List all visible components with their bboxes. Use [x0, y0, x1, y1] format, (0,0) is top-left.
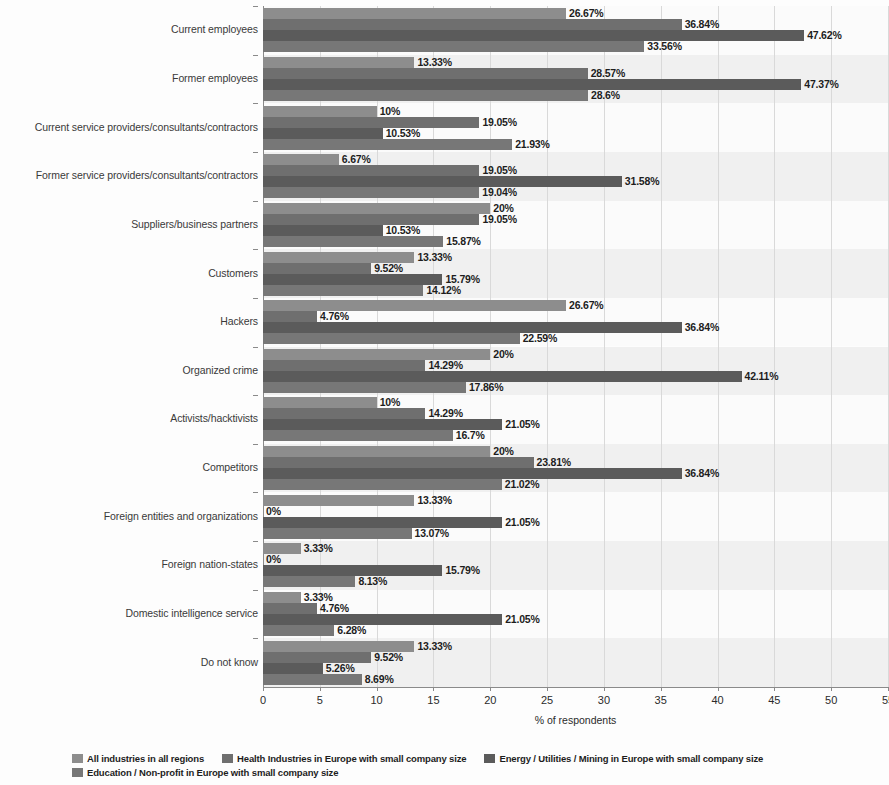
- category-tick: [253, 444, 258, 445]
- category-label: Foreign entities and organizations: [6, 510, 258, 522]
- bar[interactable]: [263, 468, 682, 479]
- category-label: Former employees: [6, 72, 258, 84]
- bar[interactable]: [263, 674, 362, 685]
- bar-group: 26.67%4.76%36.84%22.59%: [263, 300, 888, 344]
- bar[interactable]: [263, 285, 423, 296]
- bar-value-label: 26.67%: [569, 8, 603, 19]
- bar-value-label: 15.87%: [446, 236, 480, 247]
- legend-row: All industries in all regionsHealth Indu…: [72, 752, 872, 766]
- bar-group: 26.67%36.84%47.62%33.56%: [263, 8, 888, 52]
- bar[interactable]: [263, 528, 412, 539]
- x-tick-label: 25: [541, 694, 553, 706]
- bar-value-label: 26.67%: [569, 300, 603, 311]
- x-tick-label: 40: [711, 694, 723, 706]
- x-tick: [377, 687, 378, 691]
- legend-item[interactable]: Education / Non-profit in Europe with sm…: [72, 766, 338, 780]
- bar[interactable]: [263, 30, 804, 41]
- bar[interactable]: [263, 565, 442, 576]
- bar[interactable]: [263, 603, 317, 614]
- bar-value-label: 0%: [266, 506, 281, 517]
- bar-value-label: 10%: [380, 397, 400, 408]
- bar-value-label: 23.81%: [537, 457, 571, 468]
- bar[interactable]: [263, 592, 301, 603]
- category-tick: [253, 395, 258, 396]
- bar-value-label: 19.05%: [482, 165, 516, 176]
- bar[interactable]: [263, 360, 425, 371]
- legend-item[interactable]: Health Industries in Europe with small c…: [222, 752, 466, 766]
- bar[interactable]: [263, 19, 682, 30]
- bar[interactable]: [263, 57, 414, 68]
- bar-value-label: 17.86%: [469, 382, 503, 393]
- bar[interactable]: [263, 225, 383, 236]
- bar-group: 3.33%4.76%21.05%6.28%: [263, 592, 888, 636]
- category-tick: [253, 103, 258, 104]
- bar[interactable]: [263, 79, 801, 90]
- bar[interactable]: [263, 41, 644, 52]
- x-tick-label: 15: [427, 694, 439, 706]
- bar[interactable]: [263, 68, 588, 79]
- bar[interactable]: [263, 333, 520, 344]
- bar[interactable]: [263, 576, 355, 587]
- bar[interactable]: [263, 128, 383, 139]
- bar-value-label: 47.62%: [807, 30, 841, 41]
- bar[interactable]: [263, 311, 317, 322]
- bar-group: 20%14.29%42.11%17.86%: [263, 349, 888, 393]
- bar[interactable]: [263, 397, 377, 408]
- bar[interactable]: [263, 457, 534, 468]
- bar[interactable]: [263, 90, 588, 101]
- bar-value-label: 33.56%: [647, 41, 681, 52]
- bar[interactable]: [263, 252, 414, 263]
- bar[interactable]: [263, 176, 622, 187]
- bar[interactable]: [263, 154, 339, 165]
- bar[interactable]: [263, 214, 479, 225]
- legend-item[interactable]: Energy / Utilities / Mining in Europe wi…: [484, 752, 763, 766]
- bar[interactable]: [263, 517, 502, 528]
- bar-value-label: 14.12%: [426, 285, 460, 296]
- bar[interactable]: [263, 495, 414, 506]
- bar-value-label: 10.53%: [386, 225, 420, 236]
- bar[interactable]: [263, 479, 502, 490]
- category-tick: [253, 590, 258, 591]
- category-label: Suppliers/business partners: [6, 218, 258, 230]
- bar-value-label: 42.11%: [745, 371, 779, 382]
- bar[interactable]: [263, 165, 479, 176]
- category-label: Activists/hacktivists: [6, 412, 258, 424]
- bar[interactable]: [263, 263, 371, 274]
- x-axis: 0510152025303540455055: [263, 687, 888, 717]
- bar[interactable]: [263, 382, 466, 393]
- bar[interactable]: [263, 614, 502, 625]
- bar[interactable]: [263, 8, 566, 19]
- bar[interactable]: [263, 663, 323, 674]
- chart-legend: All industries in all regionsHealth Indu…: [72, 752, 872, 779]
- category-tick: [253, 298, 258, 299]
- bar[interactable]: [263, 625, 334, 636]
- legend-swatch-icon: [222, 754, 233, 763]
- bar-value-label: 10%: [380, 106, 400, 117]
- bar[interactable]: [263, 322, 682, 333]
- bar[interactable]: [263, 236, 443, 247]
- bar-value-label: 36.84%: [685, 19, 719, 30]
- bar[interactable]: [263, 117, 479, 128]
- bar[interactable]: [263, 446, 490, 457]
- bar[interactable]: [263, 274, 442, 285]
- bar[interactable]: [263, 430, 453, 441]
- bar-value-label: 16.7%: [456, 430, 485, 441]
- bar-value-label: 13.33%: [417, 495, 451, 506]
- category-label: Hackers: [6, 315, 258, 327]
- bar[interactable]: [263, 187, 479, 198]
- bar-group: 10%14.29%21.05%16.7%: [263, 397, 888, 441]
- bar[interactable]: [263, 408, 425, 419]
- legend-item[interactable]: All industries in all regions: [72, 752, 204, 766]
- bar[interactable]: [263, 203, 490, 214]
- bar[interactable]: [263, 106, 377, 117]
- bar-value-label: 21.05%: [505, 614, 539, 625]
- category-label: Domestic intelligence service: [6, 607, 258, 619]
- bar-value-label: 22.59%: [523, 333, 557, 344]
- x-tick: [320, 687, 321, 691]
- bar[interactable]: [263, 300, 566, 311]
- bar-value-label: 4.76%: [320, 311, 349, 322]
- x-tick-label: 35: [655, 694, 667, 706]
- bar-group: 13.33%9.52%5.26%8.69%: [263, 641, 888, 685]
- bar[interactable]: [263, 139, 512, 150]
- category-label: Do not know: [6, 656, 258, 668]
